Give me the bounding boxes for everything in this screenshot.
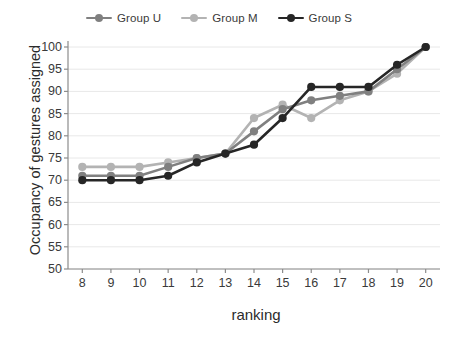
data-point [250, 127, 258, 135]
data-point [164, 163, 172, 171]
data-point [78, 176, 86, 184]
data-point [78, 163, 86, 171]
data-point [336, 92, 344, 100]
data-point [250, 141, 258, 149]
series-group-m [78, 43, 430, 171]
data-point [193, 158, 201, 166]
data-point [307, 114, 315, 122]
data-point [221, 149, 229, 157]
series-group-u [78, 43, 430, 180]
data-point [364, 83, 372, 91]
series-line [82, 47, 425, 167]
data-point [279, 114, 287, 122]
data-point [107, 163, 115, 171]
data-point [393, 61, 401, 69]
data-point [307, 96, 315, 104]
data-point [422, 43, 430, 51]
plot-area [0, 0, 449, 337]
series-line [82, 47, 425, 176]
data-point [135, 163, 143, 171]
data-point [336, 83, 344, 91]
line-chart: Group UGroup MGroup S Occupancy of gestu… [0, 0, 449, 337]
data-point [107, 176, 115, 184]
data-point [250, 114, 258, 122]
data-point [164, 172, 172, 180]
data-point [307, 83, 315, 91]
data-point [135, 176, 143, 184]
data-point [279, 105, 287, 113]
